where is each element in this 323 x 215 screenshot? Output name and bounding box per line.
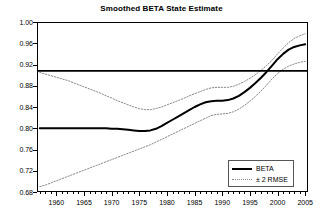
x-tick-label: 1980 (159, 199, 175, 206)
x-tick-mark-minor (40, 192, 41, 194)
x-tick-mark-major (222, 192, 223, 196)
x-tick-mark-minor (184, 192, 185, 194)
series-line (40, 44, 305, 131)
x-tick-mark-minor (45, 192, 46, 194)
x-tick-mark-minor (300, 192, 301, 194)
x-tick-label: 2000 (270, 199, 286, 206)
x-tick-mark-minor (145, 192, 146, 194)
chart-legend: BETA ± 2 RMSE (228, 160, 294, 187)
x-tick-mark-major (84, 192, 85, 196)
x-tick-mark-minor (106, 192, 107, 194)
x-tick-mark-minor (244, 192, 245, 194)
x-tick-mark-minor (233, 192, 234, 194)
x-tick-mark-minor (178, 192, 179, 194)
x-tick-mark-minor (267, 192, 268, 194)
legend-item-rmse: ± 2 RMSE (232, 174, 288, 185)
x-tick-mark-major (278, 192, 279, 196)
x-tick-mark-major (56, 192, 57, 196)
x-tick-mark-major (167, 192, 168, 196)
x-tick-mark-minor (283, 192, 284, 194)
x-tick-mark-minor (217, 192, 218, 194)
x-tick-mark-minor (101, 192, 102, 194)
legend-label-beta: BETA (256, 165, 274, 173)
x-tick-mark-minor (211, 192, 212, 194)
x-tick-mark-minor (117, 192, 118, 194)
x-tick-mark-minor (200, 192, 201, 194)
x-tick-mark-minor (62, 192, 63, 194)
x-tick-label: 1975 (132, 199, 148, 206)
x-tick-mark-major (112, 192, 113, 196)
x-tick-mark-minor (90, 192, 91, 194)
legend-label-rmse: ± 2 RMSE (256, 176, 288, 184)
x-tick-label: 1960 (49, 199, 65, 206)
x-tick-mark-minor (294, 192, 295, 194)
x-tick-mark-minor (239, 192, 240, 194)
x-tick-label: 1990 (214, 199, 230, 206)
x-tick-mark-minor (255, 192, 256, 194)
legend-swatch-dotted-line-icon (232, 176, 252, 184)
x-tick-mark-major (139, 192, 140, 196)
legend-swatch-solid-line-icon (232, 165, 252, 173)
x-tick-mark-minor (228, 192, 229, 194)
x-tick-mark-minor (78, 192, 79, 194)
legend-item-beta: BETA (232, 163, 274, 174)
x-tick-mark-minor (289, 192, 290, 194)
x-tick-label: 1995 (242, 199, 258, 206)
x-tick-mark-minor (173, 192, 174, 194)
x-tick-mark-minor (128, 192, 129, 194)
x-tick-mark-major (250, 192, 251, 196)
x-tick-mark-minor (272, 192, 273, 194)
x-tick-mark-minor (161, 192, 162, 194)
x-tick-mark-minor (156, 192, 157, 194)
x-tick-mark-minor (261, 192, 262, 194)
x-tick-mark-minor (134, 192, 135, 194)
x-tick-label: 1970 (104, 199, 120, 206)
x-tick-mark-minor (189, 192, 190, 194)
x-tick-mark-minor (150, 192, 151, 194)
x-tick-mark-minor (73, 192, 74, 194)
x-tick-mark-major (195, 192, 196, 196)
x-tick-mark-minor (123, 192, 124, 194)
x-tick-label: 2005 (297, 199, 313, 206)
x-tick-mark-major (305, 192, 306, 196)
x-tick-mark-minor (67, 192, 68, 194)
x-tick-mark-minor (95, 192, 96, 194)
x-tick-label: 1965 (76, 199, 92, 206)
x-tick-label: 1985 (187, 199, 203, 206)
x-tick-mark-minor (206, 192, 207, 194)
chart-figure: Smoothed BETA State Estimate 1.000.960.9… (0, 0, 323, 215)
x-tick-mark-minor (51, 192, 52, 194)
